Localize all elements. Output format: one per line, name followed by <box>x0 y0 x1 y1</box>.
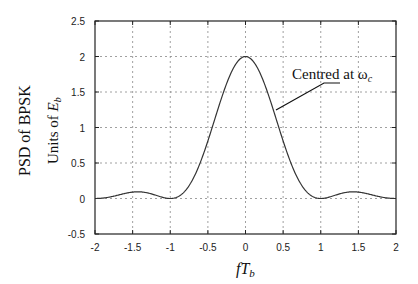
y-axis-label-inner: Units of Eb <box>45 97 63 164</box>
y-tick-labels: -0.500.511.522.5 <box>68 16 86 240</box>
x-tick-label: 2 <box>393 242 399 253</box>
x-tick-label: 0.5 <box>276 242 290 253</box>
y-tick-label: -0.5 <box>68 229 86 240</box>
y-tick-label: 0.5 <box>71 158 85 169</box>
y-axis-label-outer: PSD of BPSK <box>16 85 33 176</box>
x-tick-label: -2 <box>91 242 100 253</box>
psd-chart: -2-1.5-1-0.500.511.52 -0.500.511.522.5 C… <box>0 0 418 284</box>
svg-text:Centred at ωc: Centred at ωc <box>292 66 373 84</box>
x-tick-label: 1 <box>318 242 324 253</box>
y-tick-label: 2.5 <box>71 16 85 27</box>
y-tick-label: 0 <box>79 194 85 205</box>
x-tick-labels: -2-1.5-1-0.500.511.52 <box>91 242 400 253</box>
y-tick-label: 1.5 <box>71 87 85 98</box>
grid-lines <box>95 21 396 234</box>
annotation-text: Centred at ω <box>292 66 368 82</box>
y-tick-label: 2 <box>79 52 85 63</box>
x-tick-label: -1 <box>166 242 175 253</box>
y-tick-label: 1 <box>79 123 85 134</box>
x-tick-label: 1.5 <box>351 242 365 253</box>
x-tick-label: -0.5 <box>199 242 217 253</box>
x-tick-label: -1.5 <box>124 242 142 253</box>
annotation-subscript: c <box>368 73 373 84</box>
x-tick-label: 0 <box>243 242 249 253</box>
x-axis-label: fTb <box>236 260 255 279</box>
